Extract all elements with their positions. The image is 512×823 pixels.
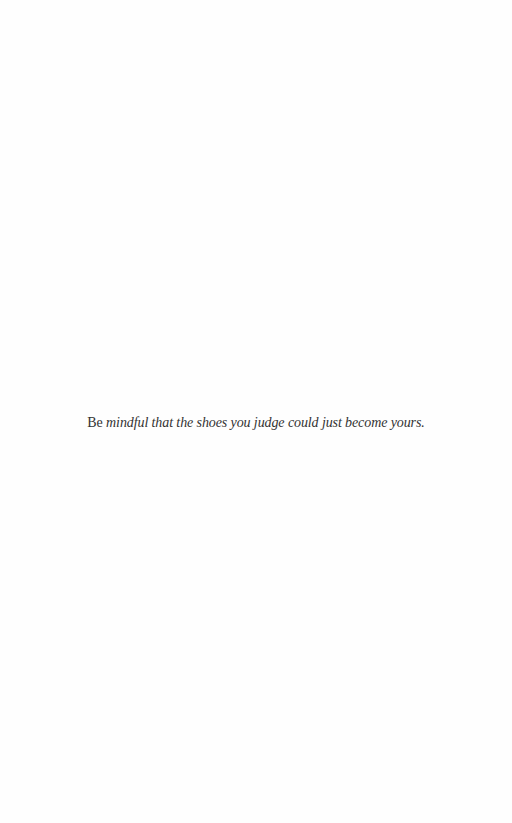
epigraph-quote: Be mindful that the shoes you judge coul… [0,414,512,432]
epigraph-text: mindful that the shoes you judge could j… [103,415,425,430]
epigraph-lead-word: Be [87,415,102,430]
page: Be mindful that the shoes you judge coul… [0,0,512,823]
